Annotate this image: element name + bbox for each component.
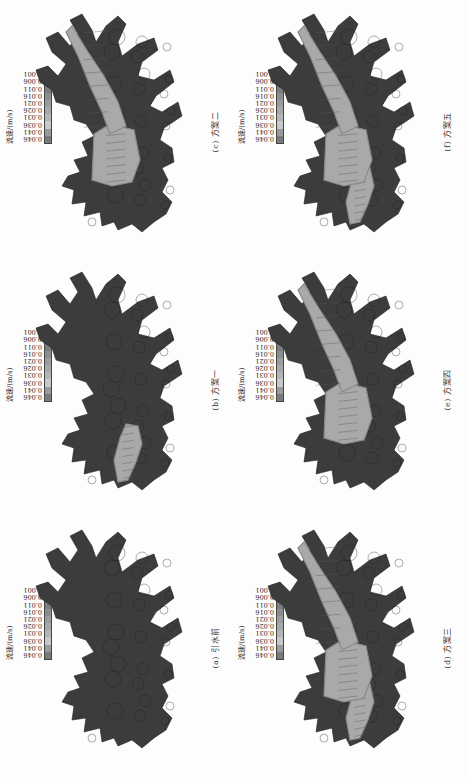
streamline-eddy xyxy=(160,606,168,614)
flow-map xyxy=(22,523,192,768)
streamline-eddy xyxy=(163,301,171,309)
streamline-eddy xyxy=(392,348,400,356)
figure-canvas: 流速/(m/s) 0.0460.0410.0360.0310.0260.0210… xyxy=(0,0,469,778)
flow-map xyxy=(22,7,192,252)
figure-row-bottom: 流速/(m/s) 0.0460.0410.0360.0310.0260.0210… xyxy=(232,0,466,778)
streamline-eddy xyxy=(392,90,400,98)
streamline-eddy xyxy=(88,218,96,226)
legend-title: 流速/(m/s) xyxy=(236,368,246,402)
figure-row-top: 流速/(m/s) 0.0460.0410.0360.0310.0260.0210… xyxy=(0,0,234,778)
streamline-eddy xyxy=(160,348,168,356)
legend-title: 流速/(m/s) xyxy=(4,110,14,144)
streamline-eddy xyxy=(160,90,168,98)
streamline-eddy xyxy=(166,186,174,194)
panel-d: 流速/(m/s) 0.0460.0410.0360.0310.0260.0210… xyxy=(232,518,466,778)
high-flow-zone-center xyxy=(324,382,372,444)
panel-caption: (a) 引水前 xyxy=(209,518,220,778)
flow-map xyxy=(254,523,424,768)
streamline-eddy xyxy=(320,476,328,484)
legend-title: 流速/(m/s) xyxy=(236,626,246,660)
streamline-eddy xyxy=(320,734,328,742)
panel-e: 流速/(m/s) 0.0460.0410.0360.0310.0260.0210… xyxy=(232,260,466,520)
streamline-eddy xyxy=(398,702,406,710)
high-flow-zone-center xyxy=(324,124,372,186)
panel-caption: (b) 方案一 xyxy=(209,260,220,520)
legend-title: 流速/(m/s) xyxy=(4,368,14,402)
panel-caption: (c) 方案二 xyxy=(209,2,220,262)
streamline-eddy xyxy=(398,444,406,452)
streamline-eddy xyxy=(163,559,171,567)
panel-f: 流速/(m/s) 0.0460.0410.0360.0310.0260.0210… xyxy=(232,2,466,262)
legend-title: 流速/(m/s) xyxy=(4,626,14,660)
panel-caption: (e) 方案四 xyxy=(441,260,452,520)
streamline-eddy xyxy=(398,186,406,194)
streamline-eddy xyxy=(395,301,403,309)
legend-title: 流速/(m/s) xyxy=(236,110,246,144)
high-flow-zone-center xyxy=(324,640,372,702)
panel-caption: (f) 方案五 xyxy=(441,2,452,262)
streamline-eddy xyxy=(395,559,403,567)
streamline-eddy xyxy=(320,218,328,226)
panel-a: 流速/(m/s) 0.0460.0410.0360.0310.0260.0210… xyxy=(0,518,234,778)
streamline-eddy xyxy=(166,444,174,452)
panel-caption: (d) 方案三 xyxy=(441,518,452,778)
flow-map xyxy=(254,7,424,252)
streamline-eddy xyxy=(88,476,96,484)
flow-map xyxy=(254,265,424,510)
high-flow-zone-center xyxy=(92,124,140,186)
panel-b: 流速/(m/s) 0.0460.0410.0360.0310.0260.0210… xyxy=(0,260,234,520)
streamline-eddy xyxy=(88,734,96,742)
streamline-eddy xyxy=(395,43,403,51)
streamline-eddy xyxy=(166,702,174,710)
flow-map xyxy=(22,265,192,510)
panel-c: 流速/(m/s) 0.0460.0410.0360.0310.0260.0210… xyxy=(0,2,234,262)
streamline-eddy xyxy=(392,606,400,614)
streamline-eddy xyxy=(163,43,171,51)
